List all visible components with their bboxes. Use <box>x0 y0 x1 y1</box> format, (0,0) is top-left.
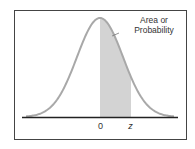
annotation-line-2: Probability <box>124 25 184 35</box>
area-or-probability-label: Area or Probability <box>124 15 184 35</box>
axis-label-z: z <box>126 121 135 131</box>
annotation-line-1: Area or <box>124 15 184 25</box>
axis-label-zero: 0 <box>96 121 105 131</box>
